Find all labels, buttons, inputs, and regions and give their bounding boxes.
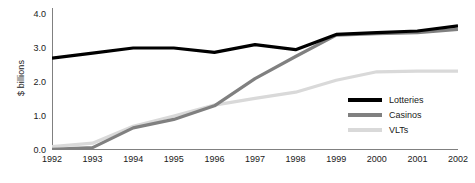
- legend-color-swatch: [348, 113, 382, 117]
- x-axis-tick-label: 2001: [407, 154, 427, 164]
- y-axis-tick-label: 1.0: [20, 111, 46, 121]
- x-axis-tick-label: 1992: [42, 154, 62, 164]
- x-axis-tick-labels: 1992199319941995199619971998199920002001…: [0, 154, 475, 174]
- x-axis-tick-label: 1999: [326, 154, 346, 164]
- line-chart: $ billions 0.01.02.03.04.0 1992199319941…: [0, 0, 475, 183]
- legend-item[interactable]: Casinos: [348, 107, 458, 122]
- legend-label: Casinos: [389, 110, 422, 120]
- x-axis-tick-label: 1996: [204, 154, 224, 164]
- x-axis-tick-label: 1997: [245, 154, 265, 164]
- legend-label: VLTs: [389, 125, 408, 135]
- legend-item[interactable]: VLTs: [348, 122, 458, 137]
- legend-color-swatch: [348, 128, 382, 132]
- y-axis-tick-label: 2.0: [20, 77, 46, 87]
- legend-item[interactable]: Lotteries: [348, 92, 458, 107]
- x-axis-tick-label: 2002: [448, 154, 468, 164]
- y-axis-tick-label: 4.0: [20, 9, 46, 19]
- x-axis-tick-label: 1994: [123, 154, 143, 164]
- x-axis-tick-label: 2000: [367, 154, 387, 164]
- x-axis-tick-label: 1995: [164, 154, 184, 164]
- y-axis-tick-label: 3.0: [20, 43, 46, 53]
- legend-label: Lotteries: [389, 95, 424, 105]
- series-line-lotteries: [52, 26, 458, 58]
- x-axis-tick-label: 1993: [83, 154, 103, 164]
- x-axis-tick-label: 1998: [286, 154, 306, 164]
- legend-color-swatch: [348, 98, 382, 102]
- legend: LotteriesCasinosVLTs: [348, 92, 458, 137]
